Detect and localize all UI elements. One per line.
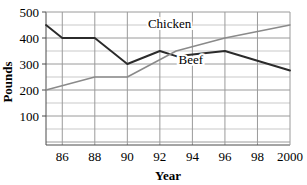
y-axis-title: Pounds [0,61,15,102]
y-tick-label-400: 400 [20,31,40,46]
x-tick-label-94: 94 [186,149,200,164]
x-tick-label-92: 92 [153,149,166,164]
line-chart: 100200300400500 868890929496982000 BeefB… [0,0,307,185]
y-tick-label-300: 300 [20,57,40,72]
y-tick-label-500: 500 [20,5,40,20]
series-label-beef: Beef [178,52,203,67]
chart-figure: 100200300400500 868890929496982000 BeefB… [0,0,307,185]
x-tick-label-90: 90 [121,149,134,164]
y-tick-label-100: 100 [20,109,40,124]
x-tick-label-2000: 2000 [277,149,303,164]
x-tick-label-86: 86 [56,149,70,164]
series-label-chicken: Chicken [148,16,192,31]
x-tick-label-96: 96 [218,149,232,164]
x-tick-label-88: 88 [88,149,101,164]
x-tick-label-98: 98 [251,149,264,164]
y-tick-label-200: 200 [20,83,40,98]
x-axis-title: Year [155,168,181,183]
